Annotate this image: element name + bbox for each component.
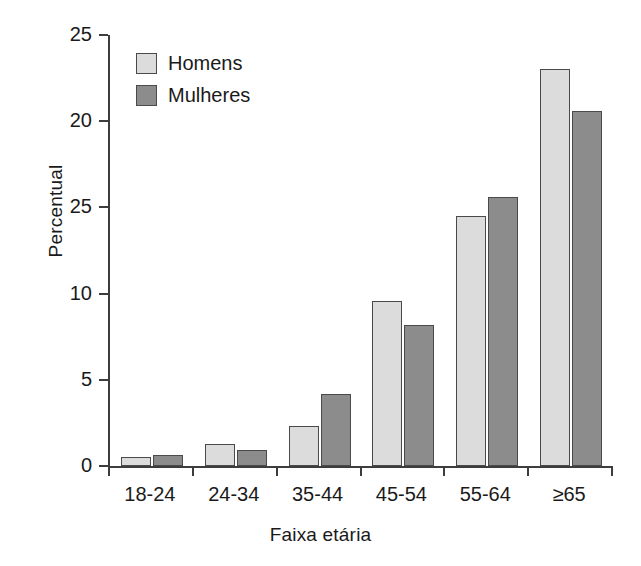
x-tick-6 — [611, 466, 613, 476]
x-tick-label-24-34: 24-34 — [208, 483, 259, 506]
y-tick-10 — [99, 293, 108, 295]
bar-mulheres-≥65 — [572, 111, 602, 466]
legend-item-mulheres: Mulheres — [136, 79, 326, 111]
x-axis-title: Faixa etária — [0, 524, 641, 546]
legend-swatch-homens — [136, 53, 157, 74]
bar-homens-45-54 — [372, 301, 402, 467]
bar-mulheres-18-24 — [153, 455, 183, 466]
y-tick-label-0: 0 — [46, 454, 92, 477]
x-tick-3 — [360, 466, 362, 476]
bar-homens-55-64 — [456, 216, 486, 466]
x-tick-1 — [192, 466, 194, 476]
x-tick-2 — [276, 466, 278, 476]
bar-mulheres-55-64 — [488, 197, 518, 466]
bar-mulheres-45-54 — [404, 325, 434, 466]
y-tick-0 — [99, 465, 108, 467]
bar-chart-figure: Percentual 0510252025 18-2424-3435-4445-… — [0, 0, 641, 566]
x-tick-label-35-44: 35-44 — [292, 483, 343, 506]
y-tick-15 — [99, 206, 108, 208]
y-tick-label-25: 25 — [46, 23, 92, 46]
x-tick-4 — [443, 466, 445, 476]
y-tick-label-10: 10 — [46, 282, 92, 305]
bar-mulheres-24-34 — [237, 450, 267, 466]
y-axis-tick-labels: 0510252025 — [46, 35, 92, 466]
bar-homens-18-24 — [121, 457, 151, 466]
x-tick-label-≥65: ≥65 — [552, 483, 585, 506]
x-tick-label-18-24: 18-24 — [124, 483, 175, 506]
legend-label-homens: Homens — [168, 53, 242, 73]
bar-homens-≥65 — [540, 69, 570, 466]
bar-mulheres-35-44 — [321, 394, 351, 466]
x-tick-label-45-54: 45-54 — [376, 483, 427, 506]
y-tick-5 — [99, 379, 108, 381]
legend-item-homens: Homens — [136, 47, 326, 79]
y-tick-label-20: 20 — [46, 109, 92, 132]
y-tick-20 — [99, 120, 108, 122]
y-tick-label-15: 25 — [46, 195, 92, 218]
legend-label-mulheres: Mulheres — [168, 85, 250, 105]
y-tick-label-5: 5 — [46, 368, 92, 391]
x-tick-label-55-64: 55-64 — [460, 483, 511, 506]
bar-homens-24-34 — [205, 444, 235, 466]
x-tick-0 — [108, 466, 110, 476]
y-tick-25 — [99, 34, 108, 36]
x-tick-5 — [527, 466, 529, 476]
bar-homens-35-44 — [289, 426, 319, 466]
chart-legend: Homens Mulheres — [136, 47, 326, 111]
legend-swatch-mulheres — [136, 85, 157, 106]
